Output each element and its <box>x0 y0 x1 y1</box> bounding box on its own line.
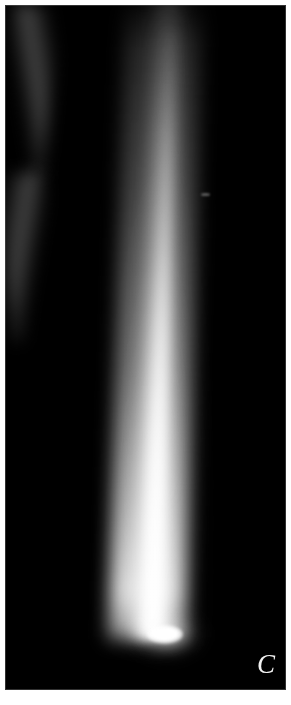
plume-left-lobe <box>5 5 60 175</box>
plume-mid-halo <box>109 5 202 639</box>
plume-outer-halo <box>93 5 212 637</box>
emission-source-shadow <box>137 643 193 665</box>
stray-speck <box>201 193 210 196</box>
emission-source-hotspot <box>153 629 177 639</box>
plume-core-filament <box>143 31 181 639</box>
emission-source-glow <box>123 591 211 679</box>
figure-page: C <box>0 0 291 705</box>
photographic-plate: C <box>5 5 286 690</box>
plume-right-lobe <box>5 171 60 343</box>
emission-source-spot <box>147 625 183 644</box>
plume-body <box>125 5 191 639</box>
panel-label: C <box>257 651 275 678</box>
